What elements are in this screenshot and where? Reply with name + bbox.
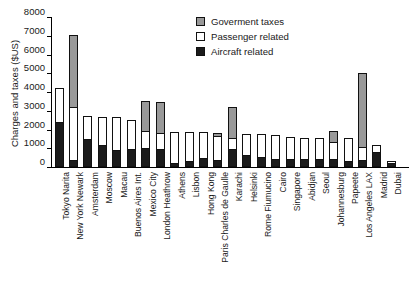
legend-item-aircraft: Aircraft related: [196, 45, 289, 58]
x-tick-label: Johannesburg: [336, 172, 346, 226]
x-tick-label: New York Newark: [75, 172, 85, 240]
x-tick-label: Hong Kong: [206, 172, 216, 215]
x-tick-label: Buenos Aires Int.: [133, 172, 143, 237]
x-tick-label: Tokyo Narita: [61, 172, 71, 220]
y-tick-label: 5000: [24, 67, 45, 68]
x-tick-label: Amsterdam: [90, 172, 100, 216]
x-tick-label: Rome Fiumucino: [263, 172, 273, 237]
x-tick-label: Cairo: [278, 172, 288, 193]
x-tick-label: Madrid: [379, 172, 389, 198]
legend-item-passenger: Passenger related: [196, 30, 289, 43]
y-tick-label: 3000: [24, 105, 45, 106]
legend-label-government: Goverment taxes: [211, 16, 284, 27]
y-tick-label: 4000: [24, 86, 45, 87]
y-tick-label: 0: [40, 161, 45, 162]
chart-legend: Goverment taxes Passenger related Aircra…: [196, 15, 289, 60]
x-tick-label: Abidjan: [307, 172, 317, 201]
y-tick-label: 6000: [24, 49, 45, 50]
chart-container: Charges and taxes ($US) 0100020003000400…: [0, 0, 413, 292]
y-tick-label: 1000: [24, 142, 45, 143]
x-tick-label: Dubai: [393, 172, 403, 194]
x-tick-label: Lisbon: [191, 172, 201, 197]
legend-label-passenger: Passenger related: [211, 31, 289, 42]
legend-swatch-aircraft-icon: [196, 47, 205, 56]
x-tick-label: Singapore: [292, 172, 302, 211]
y-tick-label: 7000: [24, 30, 45, 31]
y-tick-label: 8000: [24, 11, 45, 12]
x-tick-label: Karachi: [234, 172, 244, 201]
x-tick-label: Paris Charles de Gaulle: [220, 172, 230, 263]
legend-item-government: Goverment taxes: [196, 15, 289, 28]
y-tick-label: 2000: [24, 124, 45, 125]
x-tick-label: Athens: [177, 172, 187, 199]
x-tick-label: Mexico City: [148, 172, 158, 216]
legend-swatch-government-icon: [196, 17, 205, 26]
x-tick-label: Macau: [119, 172, 129, 198]
x-tick-label: Seoul: [321, 172, 331, 194]
x-tick-label: Papeete: [350, 172, 360, 204]
legend-label-aircraft: Aircraft related: [211, 46, 273, 57]
x-tick-label: London Heathrow: [162, 172, 172, 240]
y-axis-title: Charges and taxes ($US): [9, 19, 20, 169]
x-tick-label: Moscow: [104, 172, 114, 204]
x-tick-label: Los Angeles LAX: [364, 172, 374, 237]
legend-swatch-passenger-icon: [196, 32, 205, 41]
x-tick-label: Helsinki: [249, 172, 259, 202]
